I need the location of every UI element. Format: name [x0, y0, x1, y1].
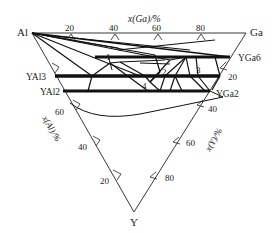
vertex-ga: Ga — [250, 26, 263, 38]
left-axis-label: x(Al)/% — [40, 113, 63, 143]
right-tick-40: 40 — [208, 104, 218, 114]
region-2: 2 — [162, 67, 167, 77]
triangle-frame — [32, 33, 246, 212]
top-tick-20: 20 — [65, 23, 75, 33]
ternary-diagram: Al Ga Y x(Ga)/% 20 40 60 80 60 40 20 x(A… — [0, 0, 275, 233]
region-3: 3 — [196, 65, 201, 75]
right-axis-label: x(Y)/% — [203, 126, 225, 154]
left-tick-20: 20 — [100, 176, 110, 186]
top-tick-60: 60 — [152, 23, 162, 33]
right-tick-60: 60 — [186, 138, 196, 148]
left-tick-40: 40 — [78, 142, 88, 152]
top-tick-40: 40 — [109, 23, 119, 33]
phase-yga6: YGa6 — [238, 53, 261, 63]
vertex-y: Y — [130, 216, 138, 228]
left-tick-60: 60 — [55, 107, 65, 117]
phase-yga2: YGa2 — [216, 89, 239, 99]
region-1: 1 — [106, 52, 111, 62]
region-4: 4 — [142, 81, 147, 91]
right-axis-ticks — [150, 62, 227, 179]
right-tick-20: 20 — [228, 72, 238, 82]
phase-yal3: YAl3 — [26, 72, 46, 82]
vertex-al: Al — [17, 26, 28, 38]
top-tick-80: 80 — [196, 23, 206, 33]
right-tick-80: 80 — [165, 173, 175, 183]
phase-yal2: YAl2 — [40, 87, 60, 97]
left-axis-ticks — [52, 63, 121, 180]
